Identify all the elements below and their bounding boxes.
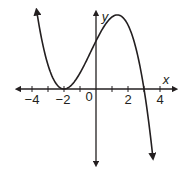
x-tick-label-2: 2 [124,92,131,107]
cubic-function-graph: −4 −2 0 2 4 x y [0,0,189,174]
x-tick-label-neg4: −4 [25,92,40,107]
x-tick-label-0: 0 [85,89,92,104]
x-tick-label-neg2: −2 [56,92,71,107]
y-axis-label: y [101,9,110,24]
x-axis-label: x [162,72,170,87]
cubic-curve [37,12,153,157]
x-tick-label-4: 4 [156,92,163,107]
